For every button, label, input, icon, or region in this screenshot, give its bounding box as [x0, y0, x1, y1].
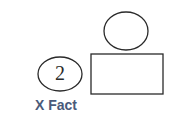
caption-label: X Fact: [35, 97, 77, 113]
box-rectangle: [91, 54, 163, 94]
top-circle: [104, 12, 148, 50]
diagram-canvas: [0, 0, 173, 117]
circle-number: 2: [52, 62, 68, 85]
